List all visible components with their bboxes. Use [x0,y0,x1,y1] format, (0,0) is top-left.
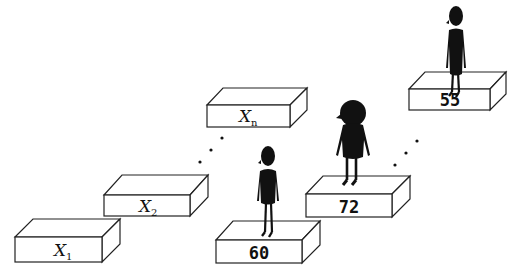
value-60: 60 [249,243,269,263]
value-72: 72 [339,197,359,217]
ellipsis-dots-values [393,139,418,166]
diagram-canvas: X1 X2 Xn 60 72 55 [0,0,519,275]
ellipsis-dots-variables [198,136,223,163]
person-figure-72 [336,100,370,185]
